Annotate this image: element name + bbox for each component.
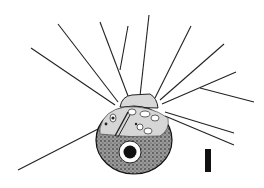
scale-bar — [205, 149, 211, 172]
nucleolus — [124, 146, 137, 159]
illustration-figure — [0, 0, 264, 188]
cell-drawing — [0, 0, 264, 188]
